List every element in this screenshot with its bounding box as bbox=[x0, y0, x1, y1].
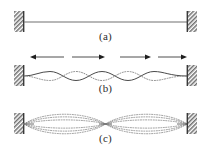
arrow-1-left bbox=[30, 55, 64, 60]
arrow-3-right bbox=[120, 55, 151, 60]
left-wall-support bbox=[14, 11, 24, 32]
left-wall-support bbox=[14, 113, 24, 134]
panel-b: (b) bbox=[0, 46, 211, 102]
panel-a: (a) bbox=[0, 0, 211, 48]
panel-a-caption: (a) bbox=[0, 30, 211, 42]
arrow-4-right bbox=[158, 55, 187, 60]
wave-direction-arrows bbox=[30, 55, 187, 60]
panel-c-caption: (c) bbox=[0, 132, 211, 144]
right-wall-support bbox=[187, 11, 197, 32]
arrow-2-right bbox=[72, 55, 105, 60]
panel-b-caption: (b) bbox=[0, 82, 211, 94]
panel-c: (c) bbox=[0, 98, 211, 152]
standing-wave-figure: (a) bbox=[0, 0, 211, 152]
right-wall-support bbox=[187, 113, 197, 134]
